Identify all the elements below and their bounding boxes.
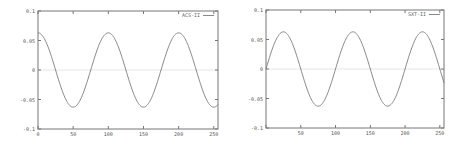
y-tick-label: 0.1 <box>254 7 263 13</box>
y-tick-label: 0.05 <box>23 38 35 44</box>
x-tick-label: 250 <box>209 131 218 137</box>
x-tick-label: 100 <box>331 130 340 136</box>
chart-right-svg: 0.10.050-0.05-0.1 50100150200250 SXT-II <box>234 0 468 146</box>
chart-left-svg: 0.10.050-0.05-0.1 050100150200250 ACS-II <box>0 0 234 146</box>
x-tick-label: 50 <box>70 131 76 137</box>
x-tick-label: 150 <box>366 130 375 136</box>
x-tick-label: 100 <box>104 131 113 137</box>
y-tick-label: -0.05 <box>20 97 35 103</box>
x-tick-label: 150 <box>139 131 148 137</box>
chart-right: 0.10.050-0.05-0.1 50100150200250 SXT-II <box>234 0 468 146</box>
chart-left: 0.10.050-0.05-0.1 050100150200250 ACS-II <box>0 0 234 146</box>
y-tick-label: 0.05 <box>251 37 263 43</box>
x-tick-label: 200 <box>401 130 410 136</box>
y-tick-label: -0.1 <box>251 125 263 131</box>
y-tick-label: 0 <box>32 67 35 73</box>
y-tick-label: -0.05 <box>248 96 263 102</box>
legend: ACS-II <box>182 12 214 18</box>
x-tick-label: 250 <box>435 130 444 136</box>
legend-label: SXT-II <box>408 11 426 17</box>
x-tick-label: 0 <box>36 131 39 137</box>
y-tick-label: -0.1 <box>23 126 35 132</box>
x-tick-label: 200 <box>174 131 183 137</box>
legend-label: ACS-II <box>182 12 200 18</box>
y-tick-label: 0.1 <box>26 8 35 14</box>
x-axis: 50100150200250 <box>266 10 444 136</box>
x-tick-label: 50 <box>298 130 304 136</box>
y-tick-label: 0 <box>260 66 263 72</box>
legend: SXT-II <box>408 11 440 17</box>
